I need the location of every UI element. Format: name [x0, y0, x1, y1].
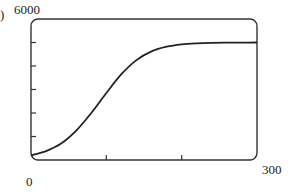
plot-frame: [31, 19, 257, 160]
axis-ticks: [31, 43, 182, 161]
chart-plot: [0, 0, 288, 194]
data-curve: [31, 43, 257, 156]
